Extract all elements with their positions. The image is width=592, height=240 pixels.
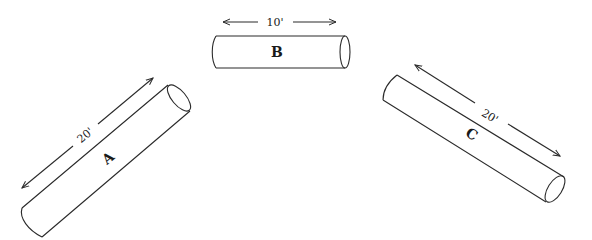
- pipes-diagram: B 10' A 20' C 20': [0, 0, 592, 240]
- pipe-c-dimension: 20': [415, 65, 560, 156]
- pipe-b-dimension-label: 10': [266, 16, 283, 29]
- pipe-a-dimension: 20': [22, 78, 153, 188]
- pipe-c: C: [383, 75, 569, 205]
- pipe-a-label: A: [98, 148, 118, 169]
- dimension-arrow-down-left: [22, 146, 73, 188]
- pipe-a-end-ellipse: [163, 81, 194, 115]
- pipe-c-end-ellipse: [541, 173, 569, 206]
- pipe-b-dimension: 10': [223, 16, 336, 29]
- pipe-b-end-ellipse: [340, 36, 350, 68]
- dimension-arrow-up-right: [98, 78, 153, 124]
- pipe-b: B: [212, 36, 350, 68]
- pipe-b-label: B: [271, 44, 283, 60]
- pipe-a-dimension-label: 20': [75, 125, 96, 146]
- pipe-a: A: [21, 81, 194, 237]
- pipe-c-dimension-label: 20': [479, 106, 500, 126]
- dimension-arrow-down-right: [508, 124, 560, 156]
- dimension-arrow-up-left: [415, 65, 475, 103]
- pipe-c-label: C: [463, 124, 481, 143]
